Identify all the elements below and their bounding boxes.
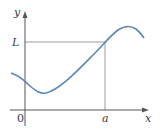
function-limit-diagram: y L 0 a x [0, 0, 160, 132]
origin-label: 0 [17, 112, 24, 125]
a-label: a [102, 112, 109, 125]
y-axis-label: y [13, 6, 21, 19]
x-axis-label: x [145, 112, 152, 125]
function-curve [11, 26, 144, 93]
x-axis [10, 108, 149, 113]
L-label: L [11, 36, 19, 49]
y-axis-arrow-icon [23, 11, 28, 18]
y-axis [23, 11, 28, 126]
